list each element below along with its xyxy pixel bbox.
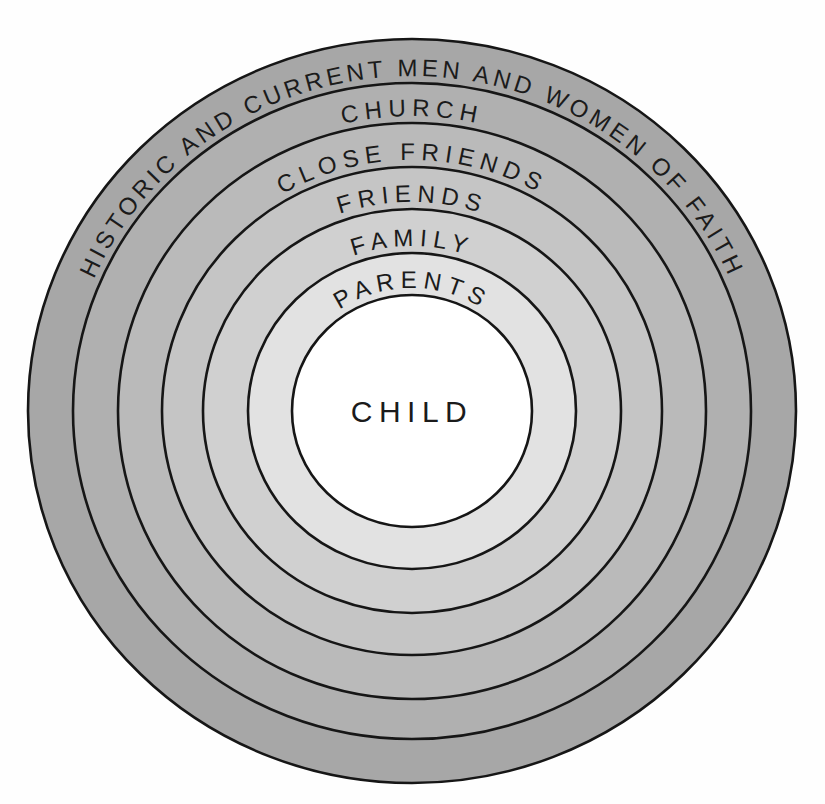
page-background: HISTORIC AND CURRENT MEN AND WOMEN OF FA… xyxy=(0,0,825,804)
center-circle-label: CHILD xyxy=(351,395,474,428)
concentric-circles-diagram: HISTORIC AND CURRENT MEN AND WOMEN OF FA… xyxy=(0,0,825,804)
